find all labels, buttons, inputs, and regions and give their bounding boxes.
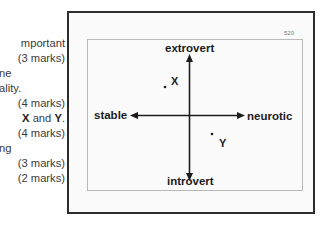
arrow-left-icon <box>130 112 138 119</box>
arrow-up-icon <box>186 54 193 62</box>
arrow-right-icon <box>237 112 245 119</box>
axis-label-stable: stable <box>94 109 127 121</box>
axis-label-extrovert: extrovert <box>165 42 214 54</box>
axis-label-introvert: introvert <box>167 175 214 187</box>
point-label-x: X <box>171 75 178 87</box>
point-y-dot <box>211 133 214 136</box>
axis-label-neurotic: neurotic <box>247 110 292 122</box>
point-x-dot <box>164 86 167 89</box>
point-label-y: Y <box>219 137 226 149</box>
